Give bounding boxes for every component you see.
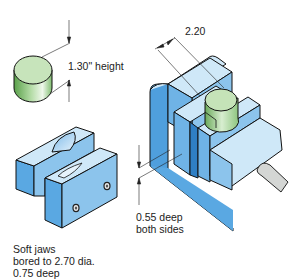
soft-jaws-note-line-2: bored to 2.70 dia. <box>13 255 95 267</box>
vise-assembly <box>150 56 288 231</box>
soft-jaws-note-line-1: Soft jaws <box>13 243 95 255</box>
cylindrical-blank <box>14 56 52 102</box>
clamped-workpiece <box>205 89 239 132</box>
vise-setup-diagram <box>0 0 297 280</box>
jaw-mounting-hole <box>73 204 79 211</box>
depth-note-line-2: both sides <box>136 223 184 235</box>
jaw-mounting-hole <box>104 182 110 189</box>
width-dimension-label: 2.20 <box>185 25 205 37</box>
blank-height-label: 1.30" height <box>68 60 124 72</box>
vise-handle-icon <box>257 163 288 192</box>
soft-jaws-note-line-3: 0.75 deep <box>13 267 95 279</box>
soft-jaws <box>16 127 117 228</box>
depth-note-line-1: 0.55 deep <box>136 211 184 223</box>
depth-note: 0.55 deep both sides <box>136 211 184 235</box>
soft-jaws-note: Soft jaws bored to 2.70 dia. 0.75 deep <box>13 243 95 279</box>
